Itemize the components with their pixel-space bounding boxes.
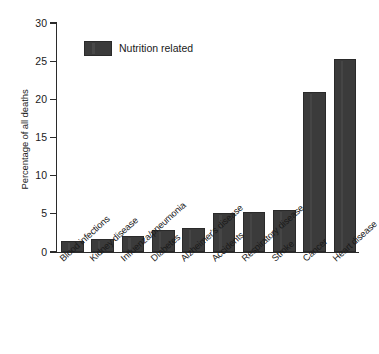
- legend-swatch-nutrition-related: [84, 41, 112, 56]
- y-axis-tick-label: 0: [7, 247, 47, 257]
- legend-label-nutrition-related: Nutrition related: [119, 43, 193, 54]
- bar: [303, 92, 326, 252]
- y-axis-tick-label: 30: [7, 18, 47, 28]
- y-axis-tick-label: 15: [7, 132, 47, 142]
- y-axis-tick-label: 5: [7, 208, 47, 218]
- y-axis-tick-label: 25: [7, 56, 47, 66]
- y-axis-tick-label: 10: [7, 170, 47, 180]
- bar: [334, 59, 357, 252]
- chart-legend: Nutrition related: [84, 41, 193, 56]
- y-axis-tick-label: 20: [7, 94, 47, 104]
